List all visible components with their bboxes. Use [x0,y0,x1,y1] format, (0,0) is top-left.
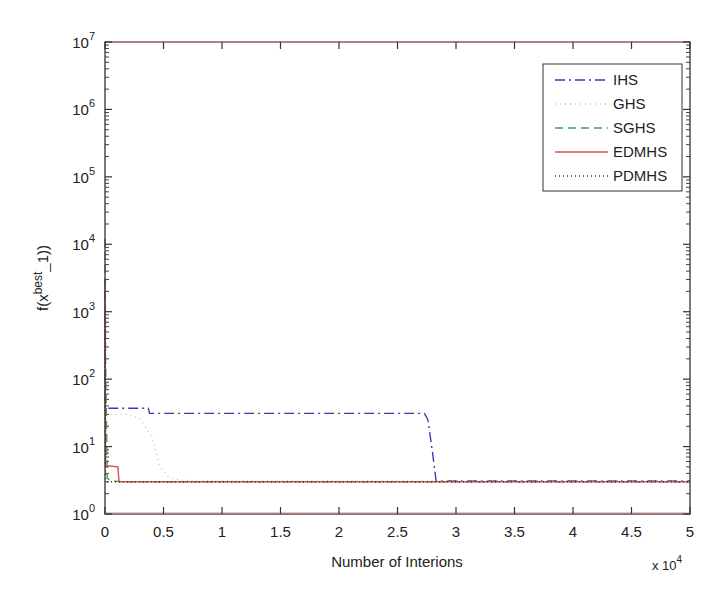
x-tick-label: 1 [218,523,226,540]
legend-label: GHS [613,95,646,112]
x-tick-label: 3 [452,523,460,540]
y-tick-label: 103 [72,300,95,321]
y-axis-title: f(xbest_1)) [31,245,51,311]
x-tick-label: 0.5 [153,523,174,540]
y-tick-label: 100 [72,502,95,523]
x-tick-label: 4.5 [621,523,642,540]
y-tick-label: 107 [72,30,95,51]
x-tick-label: 1.5 [270,523,291,540]
x-tick-label: 2.5 [387,523,408,540]
y-tick-label: 105 [72,165,95,186]
x-tick-label: 5 [686,523,694,540]
legend-label: PDMHS [613,167,667,184]
legend-label: SGHS [613,119,656,136]
legend-label: IHS [613,71,638,88]
chart: 00.511.522.533.544.55 100101102103104105… [0,0,718,600]
x-tick-label: 2 [335,523,343,540]
legend-label: EDMHS [613,143,667,160]
y-tick-label: 101 [72,435,95,456]
y-tick-label: 104 [72,232,95,253]
legend: IHSGHSSGHSEDMHSPDMHS [543,64,682,191]
x-tick-label: 3.5 [504,523,525,540]
x-tick-label: 0 [101,523,109,540]
x-axis-multiplier: x 104 [652,554,683,573]
x-axis-title: Number of Interions [331,553,463,570]
y-tick-label: 106 [72,97,95,118]
x-tick-label: 4 [569,523,577,540]
y-tick-label: 102 [72,367,95,388]
